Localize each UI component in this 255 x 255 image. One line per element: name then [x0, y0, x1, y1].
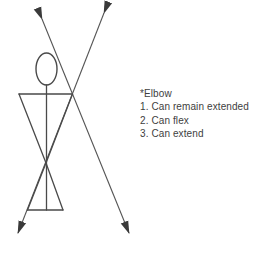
- figure-left-leg: [28, 163, 47, 210]
- annotation-item-1: 1. Can remain extended: [140, 100, 249, 113]
- figure-torso-left-edge: [19, 94, 46, 163]
- annotation-item-3: 3. Can extend: [140, 127, 249, 140]
- elbow-annotation: *Elbow 1. Can remain extended 2. Can fle…: [140, 87, 249, 141]
- figure-right-leg: [46, 163, 63, 210]
- figure-torso-right-edge: [46, 94, 73, 163]
- stick-figure: [19, 53, 73, 210]
- figure-head: [36, 53, 57, 85]
- motion-arrow-upleft-downright: [42, 19, 129, 233]
- motion-arrows: [18, 13, 129, 233]
- annotation-title: *Elbow: [140, 87, 249, 100]
- diagram-canvas: *Elbow 1. Can remain extended 2. Can fle…: [0, 0, 255, 255]
- annotation-item-2: 2. Can flex: [140, 114, 249, 127]
